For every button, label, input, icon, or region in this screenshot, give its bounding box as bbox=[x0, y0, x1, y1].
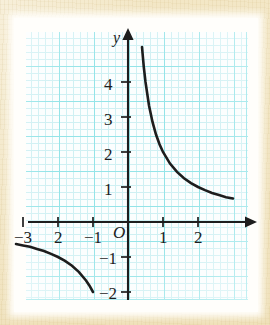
y-tick-label-neg1: −1 bbox=[99, 250, 117, 267]
scanned-page: y O 4 3 2 1 −1 −2 −3 2 −1 1 2 bbox=[0, 0, 270, 325]
y-tick-label-3: 3 bbox=[104, 111, 113, 128]
curve-right-branch bbox=[142, 47, 233, 199]
y-tick-label-1: 1 bbox=[104, 181, 113, 198]
graph-plot bbox=[0, 0, 270, 325]
x-axis-arrowhead bbox=[245, 216, 257, 227]
x-tick-label-1: 1 bbox=[159, 229, 168, 246]
x-tick-label-neg2: 2 bbox=[54, 229, 63, 246]
y-tick-label-2: 2 bbox=[104, 146, 113, 163]
y-tick-label-4: 4 bbox=[104, 76, 113, 93]
origin-label: O bbox=[113, 224, 125, 241]
curve-left-branch bbox=[16, 244, 93, 292]
y-axis-label: y bbox=[113, 30, 120, 46]
x-tick-label-2: 2 bbox=[194, 229, 203, 246]
y-axis-arrowhead bbox=[122, 28, 133, 40]
x-tick-label-neg3: −3 bbox=[14, 229, 32, 246]
x-tick-label-neg1: −1 bbox=[84, 229, 102, 246]
y-tick-label-neg2: −2 bbox=[99, 285, 117, 302]
